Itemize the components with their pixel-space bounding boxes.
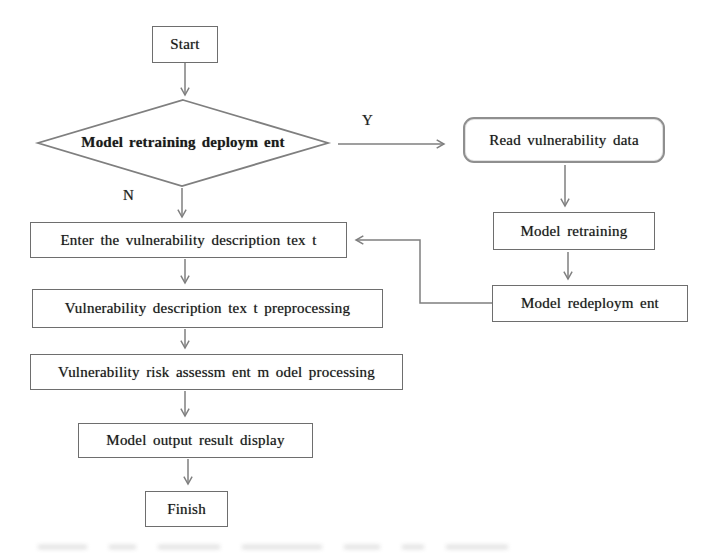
edge-label-yes: Y	[362, 112, 373, 129]
node-decision-label: Model retraining deploym ent	[58, 128, 308, 157]
node-risk-assessment-processing: Vulnerability risk assessm ent m odel pr…	[30, 354, 403, 390]
edge-label-no: N	[123, 187, 134, 204]
node-start: Start	[152, 26, 218, 63]
node-finish: Finish	[145, 491, 228, 527]
node-output-result-display: Model output result display	[78, 423, 313, 458]
node-model-redeployment: Model redeploym ent	[492, 285, 688, 322]
node-text-preprocessing: Vulnerability description tex t preproce…	[32, 289, 383, 328]
node-model-retraining: Model retraining	[493, 212, 655, 250]
cropped-caption-artifact	[38, 545, 508, 550]
flow-connectors	[0, 0, 714, 557]
node-enter-description-text: Enter the vulnerability description tex …	[30, 222, 347, 258]
flowchart-page: Start Model retraining deploym ent Y N R…	[0, 0, 714, 557]
node-read-vulnerability-data: Read vulnerability data	[463, 117, 665, 163]
